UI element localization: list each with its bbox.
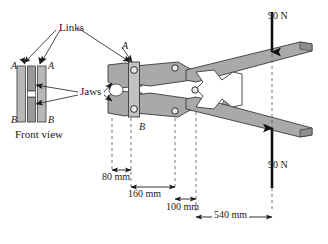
jaw-gap-opening	[109, 84, 123, 96]
upper-link-arm	[135, 62, 192, 86]
pivot-pin-center	[192, 87, 198, 93]
front-view-jaw-gap	[28, 91, 36, 97]
leader-links-right	[41, 30, 60, 63]
pivot-pin-lower-link	[172, 108, 178, 114]
label-b-front-right: B	[48, 115, 54, 125]
force-label-upper: 90 N	[268, 11, 288, 21]
lower-link-arm	[135, 93, 192, 117]
dim-label-540: 540 mm	[212, 210, 249, 220]
front-view-right-link-plate	[38, 66, 47, 122]
front-view-group	[17, 66, 46, 122]
label-b-topview: B	[139, 122, 145, 132]
leader-a-front-right	[40, 58, 41, 64]
lower-handle-end-cap	[300, 128, 312, 137]
pivot-pin-a	[131, 67, 138, 74]
dim-label-160: 160 mm	[128, 189, 161, 199]
front-view-upper-jaw	[28, 66, 36, 91]
label-front-view: Front view	[15, 129, 63, 140]
force-label-lower: 90 N	[268, 160, 288, 170]
upper-handle-end-cap	[300, 42, 312, 51]
label-b-front-left: B	[11, 115, 17, 125]
leader-a-front-left	[22, 58, 25, 64]
front-view-left-link-plate	[17, 66, 26, 122]
figure-canvas: Links Jaws Front view A A B B A B 90 N 9…	[0, 0, 328, 244]
pivot-pin-upper-link	[172, 65, 178, 71]
front-view-lower-jaw	[28, 97, 36, 122]
label-a-topview: A	[122, 41, 128, 51]
label-jaws: Jaws	[80, 86, 101, 97]
label-a-front-right: A	[48, 61, 54, 71]
leader-links-left	[24, 30, 56, 63]
pivot-pin-b	[131, 106, 138, 113]
label-a-front-left: A	[11, 61, 17, 71]
dim-label-80: 80 mm	[102, 172, 130, 182]
label-links: Links	[59, 22, 84, 33]
dim-label-100: 100 mm	[166, 202, 199, 212]
handle-notch-cutout	[196, 70, 242, 109]
